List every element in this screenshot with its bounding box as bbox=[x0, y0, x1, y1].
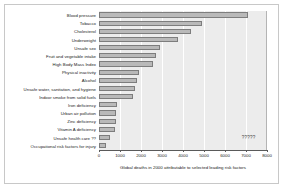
x-tick-label: 7000 bbox=[241, 153, 251, 158]
bar-row bbox=[99, 27, 267, 35]
y-axis-labels: Blood pressureTobaccoCholesterolUnderwei… bbox=[0, 11, 96, 150]
x-tick-label: 0 bbox=[98, 153, 100, 158]
bar-row bbox=[99, 68, 267, 76]
y-axis-label: Blood pressure bbox=[67, 13, 96, 18]
x-tick-mark bbox=[246, 150, 247, 152]
y-axis-label-row: Fruit and vegetable intake bbox=[0, 52, 96, 60]
y-axis-label: Underweight bbox=[72, 37, 96, 42]
x-tick-label: 3000 bbox=[157, 153, 167, 158]
y-axis-label-row: Unsafe health care ?? bbox=[0, 134, 96, 142]
y-axis-label-row: Iron deficiency bbox=[0, 101, 96, 109]
y-axis-label-row: Physical inactivity bbox=[0, 68, 96, 76]
gridline bbox=[267, 11, 268, 150]
bar-row bbox=[99, 44, 267, 52]
bar bbox=[99, 86, 135, 91]
y-axis-label-row: Urban air pollution bbox=[0, 109, 96, 117]
bar bbox=[99, 70, 139, 75]
y-axis-label: Tobacco bbox=[80, 21, 96, 26]
x-tick-label: 4000 bbox=[178, 153, 188, 158]
bar-row bbox=[99, 142, 267, 150]
bar bbox=[99, 45, 160, 50]
y-axis-label: Indoor smoke from solid fuels bbox=[39, 94, 96, 99]
x-tick-label: 5000 bbox=[199, 153, 209, 158]
bar-row bbox=[99, 19, 267, 27]
bar bbox=[99, 143, 106, 148]
bar-row bbox=[99, 60, 267, 68]
bar bbox=[99, 127, 115, 132]
y-axis-label: Iron deficiency bbox=[68, 102, 96, 107]
x-tick-mark bbox=[141, 150, 142, 152]
bar-row bbox=[99, 85, 267, 93]
bar-row bbox=[99, 52, 267, 60]
bar-row bbox=[99, 93, 267, 101]
bar bbox=[99, 53, 156, 58]
bar bbox=[99, 29, 191, 34]
y-axis-label-row: Tobacco bbox=[0, 19, 96, 27]
bar-row bbox=[99, 36, 267, 44]
bar bbox=[99, 78, 137, 83]
bar-row bbox=[99, 101, 267, 109]
bar-row bbox=[99, 109, 267, 117]
y-axis-label: Physical inactivity bbox=[62, 70, 96, 75]
bar-row bbox=[99, 125, 267, 133]
x-tick-mark bbox=[120, 150, 121, 152]
y-axis-label-row: Unsafe sex bbox=[0, 44, 96, 52]
y-axis-label: Cholesterol bbox=[74, 29, 96, 34]
bar-row bbox=[99, 11, 267, 19]
x-tick-label: 1000 bbox=[115, 153, 125, 158]
chart-annotation: ????? bbox=[242, 135, 256, 140]
y-axis-label-row: Vitamin A deficiency bbox=[0, 125, 96, 133]
y-axis-label-row: Indoor smoke from solid fuels bbox=[0, 93, 96, 101]
y-axis-label: High Body Mass Index bbox=[53, 62, 96, 67]
y-axis-label: Unsafe water, sanitation, and hygiene bbox=[24, 86, 96, 91]
y-axis-label-row: Zinc deficiency bbox=[0, 117, 96, 125]
y-axis-label: Fruit and vegetable intake bbox=[46, 53, 96, 58]
x-tick-mark bbox=[99, 150, 100, 152]
x-tick-mark bbox=[225, 150, 226, 152]
y-axis-label: Vitamin A deficiency bbox=[57, 127, 96, 132]
bar bbox=[99, 119, 116, 124]
bar bbox=[99, 12, 248, 17]
y-axis-label-row: High Body Mass Index bbox=[0, 60, 96, 68]
y-axis-label: Unsafe sex bbox=[74, 45, 96, 50]
bar bbox=[99, 102, 117, 107]
y-axis-label: Zinc deficiency bbox=[67, 119, 96, 124]
x-tick-label: 6000 bbox=[220, 153, 230, 158]
bar bbox=[99, 135, 110, 140]
chart-figure: Blood pressureTobaccoCholesterolUnderwei… bbox=[0, 0, 283, 188]
x-axis-title: Global deaths in 2000 attributable to se… bbox=[99, 165, 267, 170]
bar bbox=[99, 110, 116, 115]
bar bbox=[99, 94, 133, 99]
x-tick-mark bbox=[204, 150, 205, 152]
x-tick-label: 8000 bbox=[262, 153, 272, 158]
y-axis-label-row: Alcohol bbox=[0, 76, 96, 84]
y-axis-label-row: Blood pressure bbox=[0, 11, 96, 19]
y-axis-label-row: Cholesterol bbox=[0, 27, 96, 35]
bar-row bbox=[99, 117, 267, 125]
x-tick-label: 2000 bbox=[136, 153, 146, 158]
y-axis-label: Unsafe health care ?? bbox=[54, 135, 96, 140]
x-tick-mark bbox=[162, 150, 163, 152]
y-axis-label: Occupational risk factors for injury bbox=[31, 143, 96, 148]
bar bbox=[99, 61, 153, 66]
bar-series bbox=[99, 11, 267, 150]
bar-row bbox=[99, 76, 267, 84]
bar bbox=[99, 21, 202, 26]
x-tick-mark bbox=[183, 150, 184, 152]
y-axis-label-row: Underweight bbox=[0, 36, 96, 44]
x-tick-mark bbox=[267, 150, 268, 152]
y-axis-label: Urban air pollution bbox=[61, 111, 96, 116]
y-axis-label: Alcohol bbox=[82, 78, 96, 83]
y-axis-label-row: Unsafe water, sanitation, and hygiene bbox=[0, 85, 96, 93]
bar bbox=[99, 37, 178, 42]
y-axis-label-row: Occupational risk factors for injury bbox=[0, 142, 96, 150]
plot-wrapper: Blood pressureTobaccoCholesterolUnderwei… bbox=[0, 0, 283, 188]
